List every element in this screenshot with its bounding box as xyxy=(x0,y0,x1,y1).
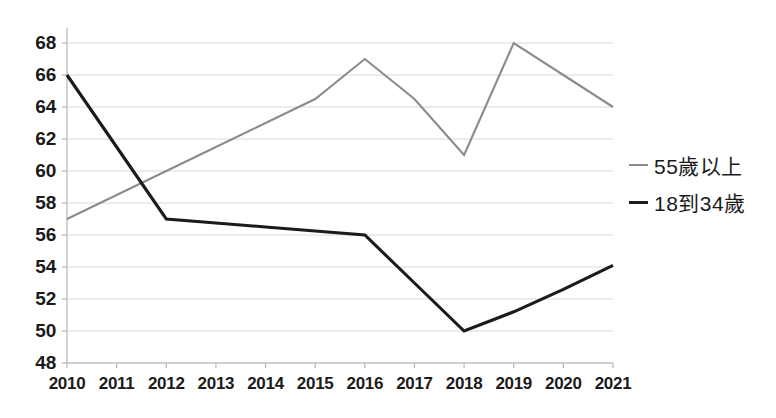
data-series-lines xyxy=(67,43,613,331)
y-axis-label: 64 xyxy=(16,96,56,118)
legend-label: 55歲以上 xyxy=(654,150,743,180)
x-axis-label: 2013 xyxy=(188,374,244,394)
y-axis-label: 54 xyxy=(16,256,56,278)
x-axis-label: 2021 xyxy=(585,374,641,394)
y-axis-tick-marks xyxy=(62,43,67,363)
x-axis-label: 2015 xyxy=(287,374,343,394)
x-axis-label: 2019 xyxy=(486,374,542,394)
legend-line-marker-icon xyxy=(629,201,648,204)
y-axis-label: 50 xyxy=(16,320,56,342)
y-axis-label: 60 xyxy=(16,160,56,182)
y-axis-label: 68 xyxy=(16,32,56,54)
y-axis-label: 52 xyxy=(16,288,56,310)
legend-label: 18到34歲 xyxy=(654,187,746,217)
x-axis-label: 2010 xyxy=(39,374,95,394)
y-axis-label: 66 xyxy=(16,64,56,86)
gridlines xyxy=(67,43,613,363)
x-axis-label: 2016 xyxy=(337,374,393,394)
x-axis-label: 2020 xyxy=(535,374,591,394)
legend-line-marker-icon xyxy=(629,164,648,166)
x-axis-label: 2011 xyxy=(89,374,145,394)
legend-item-18-to-34[interactable]: 18到34歲 xyxy=(629,187,746,217)
x-axis-label: 2014 xyxy=(238,374,294,394)
y-axis-label: 62 xyxy=(16,128,56,150)
y-axis-label: 58 xyxy=(16,192,56,214)
x-axis-label: 2017 xyxy=(386,374,442,394)
y-axis-label: 56 xyxy=(16,224,56,246)
x-axis-tick-marks xyxy=(67,363,613,368)
x-axis-label: 2018 xyxy=(436,374,492,394)
x-axis-label: 2012 xyxy=(138,374,194,394)
line-chart: 6866646260585654525048 20102011201220132… xyxy=(0,0,776,418)
y-axis-label: 48 xyxy=(16,352,56,374)
legend-item-55-and-over[interactable]: 55歲以上 xyxy=(629,150,746,180)
chart-legend: 55歲以上 18到34歲 xyxy=(629,150,746,217)
